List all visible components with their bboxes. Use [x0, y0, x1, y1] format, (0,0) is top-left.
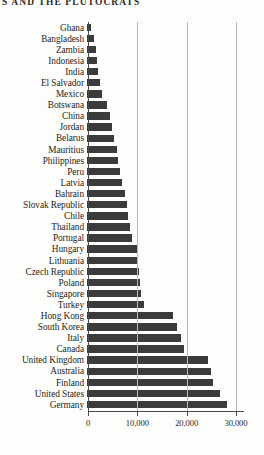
chart-row: Indonesia: [0, 55, 264, 66]
bar: [87, 190, 125, 197]
chart-row: China: [0, 111, 264, 122]
category-label: Portugal: [0, 233, 87, 243]
bar-track: [87, 22, 264, 33]
bar-track: [87, 33, 264, 44]
chart-row: Singapore: [0, 288, 264, 299]
chart-rows: GhanaBangladeshZambiaIndonesiaIndiaEl Sa…: [0, 22, 264, 410]
category-label: Singapore: [0, 289, 87, 299]
category-label: Bangladesh: [0, 34, 87, 44]
x-axis-tick-label: 10,000: [126, 418, 149, 428]
bar: [87, 179, 122, 186]
category-label: Thailand: [0, 222, 87, 232]
category-label: Germany: [0, 400, 87, 410]
x-axis-tick-label: 30,000: [224, 418, 247, 428]
chart-row: Jordan: [0, 122, 264, 133]
category-label: China: [0, 111, 87, 121]
bar-track: [87, 133, 264, 144]
bar: [87, 323, 177, 330]
chart-row: Australia: [0, 366, 264, 377]
bar: [87, 234, 132, 241]
bar: [87, 401, 227, 408]
bar-track: [87, 244, 264, 255]
bar: [87, 146, 117, 153]
chart-row: Mexico: [0, 89, 264, 100]
chart-row: Germany: [0, 399, 264, 410]
chart-row: Hungary: [0, 244, 264, 255]
category-label: Slovak Republic: [0, 200, 87, 210]
bar-track: [87, 333, 264, 344]
bar-track: [87, 310, 264, 321]
chart-row: El Salvador: [0, 77, 264, 88]
category-label: United Kingdom: [0, 355, 87, 365]
category-label: Ghana: [0, 23, 87, 33]
bar: [87, 157, 118, 164]
bar: [87, 257, 138, 264]
bar-track: [87, 166, 264, 177]
category-label: Lithuania: [0, 256, 87, 266]
bar: [87, 68, 98, 75]
category-label: Czech Republic: [0, 267, 87, 277]
bar-track: [87, 77, 264, 88]
bar: [87, 168, 120, 175]
chart-row: Bahrain: [0, 188, 264, 199]
bar: [87, 212, 128, 219]
bar-track: [87, 211, 264, 222]
chart-page: S AND THE PLUTOCRATS GhanaBangladeshZamb…: [0, 0, 264, 455]
category-label: Finland: [0, 378, 87, 388]
chart-row: Lithuania: [0, 255, 264, 266]
bar-track: [87, 122, 264, 133]
chart-row: Hong Kong: [0, 310, 264, 321]
bar-track: [87, 66, 264, 77]
bar: [87, 46, 96, 53]
category-label: Latvia: [0, 178, 87, 188]
x-axis-line: [88, 411, 244, 412]
chart-row: Latvia: [0, 177, 264, 188]
bar: [87, 379, 213, 386]
chart-row: United States: [0, 388, 264, 399]
bar-track: [87, 388, 264, 399]
bar: [87, 390, 220, 397]
bar-track: [87, 233, 264, 244]
bar: [87, 290, 141, 297]
bar: [87, 268, 139, 275]
x-axis-tick-label: 20,000: [175, 418, 198, 428]
bar: [87, 245, 137, 252]
bar: [87, 356, 208, 363]
bar: [87, 223, 130, 230]
running-head: S AND THE PLUTOCRATS: [0, 0, 264, 8]
chart-row: Zambia: [0, 44, 264, 55]
bar: [87, 334, 181, 341]
category-label: Jordan: [0, 122, 87, 132]
bar: [87, 112, 110, 119]
category-label: India: [0, 67, 87, 77]
bar-track: [87, 89, 264, 100]
category-label: Canada: [0, 344, 87, 354]
bar-track: [87, 377, 264, 388]
category-label: Chile: [0, 211, 87, 221]
bar-track: [87, 111, 264, 122]
bar-track: [87, 355, 264, 366]
x-axis-tick-label: 0: [86, 418, 90, 428]
bar: [87, 279, 140, 286]
chart-row: Poland: [0, 277, 264, 288]
category-label: Turkey: [0, 300, 87, 310]
bar: [87, 79, 100, 86]
bar-track: [87, 288, 264, 299]
bar: [87, 345, 184, 352]
bar-track: [87, 44, 264, 55]
chart-row: Ghana: [0, 22, 264, 33]
bar: [87, 301, 144, 308]
category-label: Botswana: [0, 100, 87, 110]
category-label: Australia: [0, 366, 87, 376]
chart-row: Philippines: [0, 155, 264, 166]
chart-row: South Korea: [0, 322, 264, 333]
bar-track: [87, 100, 264, 111]
chart-row: Slovak Republic: [0, 200, 264, 211]
bar: [87, 35, 94, 42]
bar: [87, 201, 127, 208]
bar: [87, 57, 97, 64]
bar-track: [87, 177, 264, 188]
bar-track: [87, 188, 264, 199]
category-label: South Korea: [0, 322, 87, 332]
bar-track: [87, 55, 264, 66]
